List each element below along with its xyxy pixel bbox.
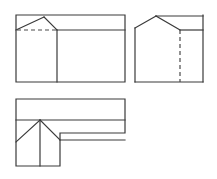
side-elevation-view (135, 15, 203, 82)
side-elevation-face (135, 16, 203, 82)
orthographic-drawing-canvas (0, 0, 217, 179)
front-elevation-view (16, 15, 125, 82)
technical-drawing-sheet (0, 0, 217, 179)
front-elevation-face (16, 15, 125, 82)
